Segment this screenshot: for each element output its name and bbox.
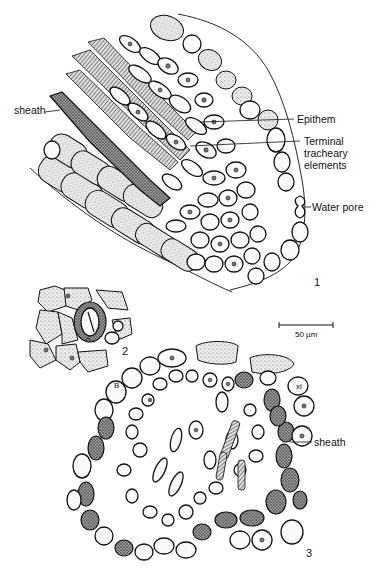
panel-3-cross-section — [67, 342, 314, 561]
panel-3-marker-xl: xl — [296, 381, 302, 393]
figure-drawing — [0, 0, 380, 584]
panel-2-stoma-surface-view — [30, 286, 132, 372]
label-sheath-panel-1: sheath — [14, 104, 46, 116]
label-elements-line: elements — [304, 159, 348, 171]
sheath-leader-line — [45, 110, 60, 112]
label-water-pore: Water pore — [312, 201, 364, 213]
scale-bar — [279, 322, 333, 328]
panel-2-number: 2 — [122, 345, 128, 357]
panel-1-number: 1 — [314, 276, 320, 288]
label-terminal-tracheary-elements: Terminal tracheary elements — [304, 135, 348, 171]
panel-3-marker-b: B — [114, 380, 119, 392]
label-sheath-panel-3: sheath — [314, 436, 346, 448]
label-terminal-line: Terminal — [304, 135, 348, 147]
label-epithem: Epithem — [297, 113, 336, 125]
scale-bar-label: 50 µm — [295, 329, 317, 341]
label-tracheary-line: tracheary — [304, 147, 348, 159]
panel-3-xylem-elements — [216, 420, 245, 490]
panel-3-number: 3 — [306, 547, 312, 559]
panel-1-hydathode-section — [30, 11, 333, 328]
water-pore-shape — [295, 196, 305, 218]
